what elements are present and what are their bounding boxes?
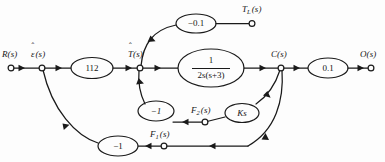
gain-label-rate-ks: Ks bbox=[226, 109, 258, 118]
plant-denominator-text: 2s(s+3) bbox=[197, 70, 224, 80]
node-label-epsilon: ε (s) bbox=[31, 50, 45, 59]
edge-inner-neg-to-torque-node bbox=[139, 70, 145, 104]
arrowhead-c-to-sensor bbox=[294, 65, 301, 71]
edge-load-torque-to-torque-node bbox=[141, 25, 176, 66]
gain-label-load-minus-0-1: −0.1 bbox=[176, 19, 216, 28]
arrowhead-load-torque-branch bbox=[148, 36, 156, 43]
node-label-r: R(s) bbox=[2, 50, 17, 59]
torque-paren: (s) bbox=[133, 49, 143, 59]
f2-paren: (s) bbox=[200, 105, 211, 115]
signal-flow-graph-figure: R(s) ε (s) T(s) TL (s) C(s) O(s) F1 (s) … bbox=[0, 0, 385, 162]
arrowhead-outer-rail-to-f1 bbox=[209, 143, 216, 149]
gain-label-plant-numerator: 1 bbox=[191, 56, 231, 65]
torque-hat-glyph: T bbox=[128, 49, 133, 59]
f1-paren: (s) bbox=[159, 129, 170, 139]
node-output bbox=[368, 65, 374, 71]
arrowhead-sensor-to-output bbox=[358, 65, 365, 71]
node-load-torque bbox=[249, 21, 255, 27]
node-label-f2: F2 (s) bbox=[191, 106, 211, 117]
arrowhead-f2-to-inner-neg bbox=[182, 119, 189, 125]
arrowhead-r-to-epsilon bbox=[19, 65, 26, 71]
gain-label-amp-112: 112 bbox=[72, 64, 112, 73]
arrowhead-epsilon-to-amp bbox=[56, 65, 63, 71]
edge-c-to-rate-gain bbox=[256, 70, 280, 104]
load-torque-paren: (s) bbox=[251, 4, 262, 14]
node-torque bbox=[137, 65, 143, 71]
node-label-load-torque: TL (s) bbox=[242, 5, 261, 16]
node-epsilon bbox=[39, 65, 45, 71]
arrowhead-f1-to-outer-neg bbox=[145, 143, 152, 149]
node-f2 bbox=[202, 119, 208, 125]
arrowhead-torque-to-plant bbox=[155, 65, 162, 71]
node-c bbox=[278, 65, 284, 71]
node-label-output: O(s) bbox=[360, 50, 376, 59]
gain-label-sensor-0-1: 0.1 bbox=[308, 64, 348, 73]
edge-outer-neg-to-epsilon bbox=[43, 70, 98, 143]
arrowhead-outer-neg-to-epsilon bbox=[63, 124, 70, 131]
epsilon-hat-glyph: ε bbox=[31, 49, 35, 59]
node-r bbox=[8, 65, 14, 71]
arrowhead-amp-to-torque bbox=[126, 65, 133, 71]
arrowhead-plant-to-c bbox=[260, 65, 267, 71]
gain-label-outer-minus-1: −1 bbox=[98, 142, 138, 151]
arrowhead-inner-neg-to-torque-node bbox=[136, 78, 144, 84]
load-torque-hat-glyph: T bbox=[242, 4, 247, 14]
node-label-torque: T(s) bbox=[128, 50, 143, 59]
node-label-c: C(s) bbox=[271, 50, 287, 59]
node-label-f1: F1 (s) bbox=[150, 130, 170, 141]
gain-label-plant-denominator: 2s(s+3) bbox=[186, 71, 236, 80]
epsilon-paren: (s) bbox=[35, 49, 46, 59]
gain-label-inner-minus-1: −1 bbox=[138, 107, 174, 116]
node-f1 bbox=[161, 143, 167, 149]
